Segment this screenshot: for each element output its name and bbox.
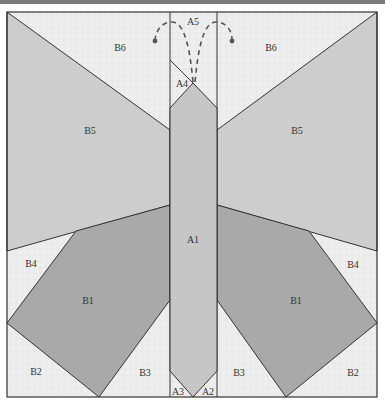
label-b5-right: B5 [291,125,303,136]
label-b5-left: B5 [84,125,96,136]
label-a2: A2 [202,386,214,397]
label-b1-left: B1 [82,295,94,306]
label-b3-left: B3 [139,367,151,378]
label-b6-right: B6 [265,42,277,53]
label-b4-right: B4 [347,259,359,270]
label-b6-left: B6 [114,42,126,53]
quilt-diagram: A5 A4 A1 A3 A2 B6 B6 B5 B5 B4 B4 B1 B1 B… [0,0,385,407]
label-a4: A4 [176,78,188,89]
antenna-tip-right-icon [230,39,235,44]
label-b2-left: B2 [30,366,42,377]
label-b3-right: B3 [233,367,245,378]
label-a1: A1 [187,234,199,245]
antenna-tip-left-icon [153,39,158,44]
label-b4-left: B4 [25,258,37,269]
label-b1-right: B1 [290,295,302,306]
label-a3: A3 [172,386,184,397]
label-a5: A5 [187,16,199,27]
label-b2-right: B2 [347,367,359,378]
